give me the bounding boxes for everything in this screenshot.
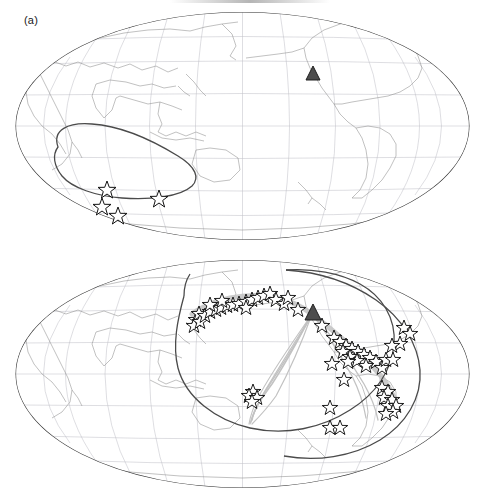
- panel-a: (a): [0, 0, 485, 248]
- panel-a-map: [0, 0, 485, 248]
- panel-b-map-body: [0, 248, 485, 496]
- panel-a-map-body: [0, 0, 485, 248]
- panel-b-map: [0, 248, 485, 496]
- panel-b: (b): [0, 248, 485, 496]
- figure-root: (a): [0, 0, 485, 496]
